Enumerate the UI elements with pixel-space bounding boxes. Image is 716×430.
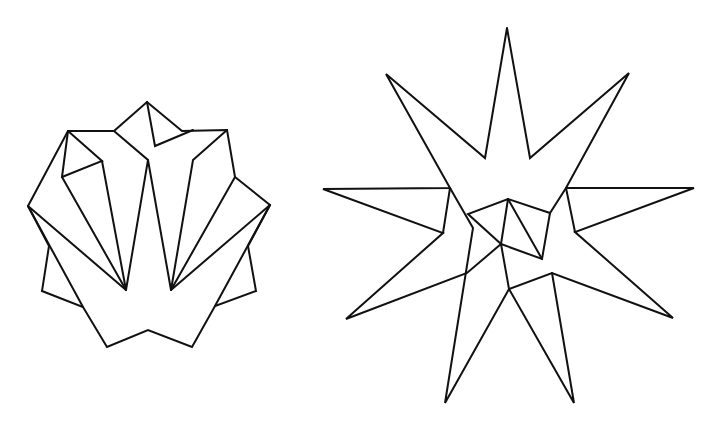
- nine-point-star-right-edge: [501, 213, 550, 259]
- nine-point-star-right-edge: [323, 28, 629, 319]
- nine-point-star-right: [323, 28, 694, 403]
- folded-polygon-left: [28, 102, 270, 347]
- nine-point-star-right-edge: [501, 199, 574, 403]
- nine-point-star-right-edge: [566, 188, 575, 232]
- folded-polygon-left-edge: [28, 206, 83, 307]
- folded-polygon-left-edge: [28, 102, 270, 347]
- folded-polygon-left-edge: [215, 205, 270, 306]
- folded-polygon-left-edge: [171, 205, 270, 290]
- folded-polygon-left-edge: [148, 160, 171, 290]
- folded-polygon-left-edge: [114, 131, 148, 290]
- nine-point-star-right-edge: [443, 188, 450, 233]
- diagram-canvas: [0, 0, 716, 430]
- folded-polygon-left-edge: [28, 206, 126, 290]
